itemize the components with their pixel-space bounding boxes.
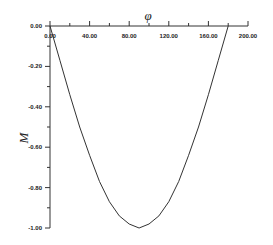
chart: 0.0040.0080.00120.00160.00200.000.00-0.2…: [0, 0, 273, 245]
x-tick-label: 80.00: [122, 33, 138, 39]
y-axis-title: M: [16, 131, 31, 144]
x-tick-label: 120.00: [160, 33, 179, 39]
y-tick-label: -0.60: [28, 144, 42, 150]
tick-labels: 0.0040.0080.00120.00160.00200.000.00-0.2…: [28, 23, 258, 231]
y-tick-label: -0.40: [28, 104, 42, 110]
y-tick-label: -1.00: [28, 225, 42, 231]
y-tick-label: 0.00: [30, 23, 42, 29]
x-tick-label: 160.00: [199, 33, 218, 39]
y-tick-label: -0.20: [28, 63, 42, 69]
x-axis-title: φ: [144, 8, 151, 23]
ticks: [45, 21, 248, 228]
x-tick-label: 40.00: [82, 33, 98, 39]
x-tick-label: 200.00: [239, 33, 258, 39]
y-tick-label: -0.80: [28, 185, 42, 191]
data-line: [50, 26, 228, 228]
x-tick-label: 0.00: [44, 33, 56, 39]
